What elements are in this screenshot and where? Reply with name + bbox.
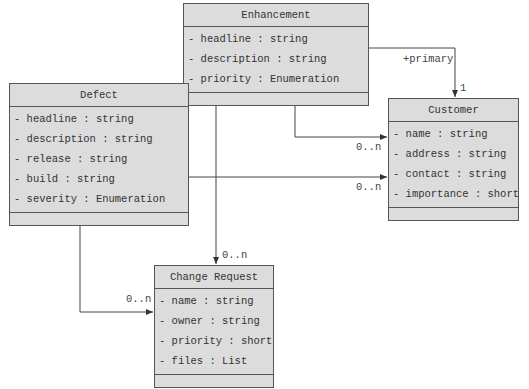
class-enhancement[interactable]: Enhancement - headline : string - descri…: [183, 3, 369, 106]
operations-compartment: [155, 375, 273, 387]
class-change-request[interactable]: Change Request - name : string - owner :…: [154, 265, 274, 388]
class-defect[interactable]: Defect - headline : string - description…: [9, 83, 189, 226]
multiplicity-label: 1: [460, 82, 466, 94]
operations-compartment: [184, 93, 368, 105]
attribute: - headline : string: [10, 109, 188, 129]
attribute: - description : string: [10, 129, 188, 149]
attribute: - headline : string: [184, 29, 368, 49]
operations-compartment: [10, 213, 188, 225]
attribute: - priority : Enumeration: [184, 69, 368, 89]
multiplicity-label: 0..n: [222, 249, 247, 261]
attribute-list: - name : string - owner : string - prior…: [155, 289, 273, 375]
attribute: - name : string: [389, 124, 518, 144]
attribute-list: - name : string - address : string - con…: [389, 122, 518, 208]
role-label-primary: +primary: [403, 53, 453, 65]
attribute: - contact : string: [389, 164, 518, 184]
class-name: Defect: [10, 84, 188, 107]
class-customer[interactable]: Customer - name : string - address : str…: [388, 98, 519, 221]
attribute: - priority : short: [155, 331, 273, 351]
attribute: - files : List: [155, 351, 273, 371]
multiplicity-label: 0..n: [356, 141, 381, 153]
class-name: Customer: [389, 99, 518, 122]
attribute-list: - headline : string - description : stri…: [184, 27, 368, 93]
attribute: - name : string: [155, 291, 273, 311]
attribute: - address : string: [389, 144, 518, 164]
attribute: - importance : short: [389, 184, 518, 204]
attribute: - description : string: [184, 49, 368, 69]
class-name: Enhancement: [184, 4, 368, 27]
attribute-list: - headline : string - description : stri…: [10, 107, 188, 213]
attribute: - severity : Enumeration: [10, 189, 188, 209]
attribute: - build : string: [10, 169, 188, 189]
attribute: - owner : string: [155, 311, 273, 331]
multiplicity-label: 0..n: [126, 293, 151, 305]
operations-compartment: [389, 208, 518, 220]
attribute: - release : string: [10, 149, 188, 169]
class-name: Change Request: [155, 266, 273, 289]
multiplicity-label: 0..n: [356, 181, 381, 193]
